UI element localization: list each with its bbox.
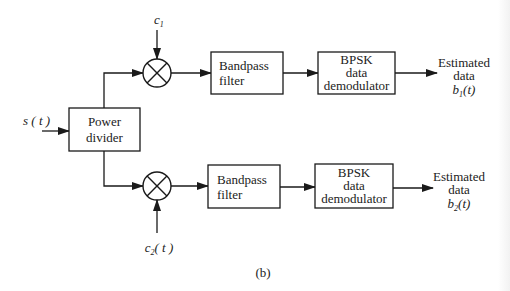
lower-branch: c2( t ) Bandpass filter BPSK data demodu…: [143, 164, 485, 257]
lower-branch-wire: [104, 151, 143, 186]
output1-label-line2: data: [453, 68, 475, 83]
bandpass-filter2-line1: Bandpass: [217, 172, 267, 187]
input-signal: s ( t ): [23, 113, 69, 131]
bpsk-demodulator1-line3: demodulator: [324, 78, 390, 93]
power-divider-label-line2: divider: [86, 130, 123, 145]
output1-symbol: b1(t): [453, 82, 476, 99]
power-divider-block: Power divider: [69, 108, 140, 151]
mixer2-input-label: c2( t ): [145, 240, 174, 257]
figure-caption: (b): [255, 265, 270, 280]
upper-branch-wire: [104, 73, 143, 108]
mixer1-multiplier-icon: [143, 59, 171, 87]
bandpass-filter1-line1: Bandpass: [219, 58, 269, 73]
bandpass-filter2-line2: filter: [217, 187, 243, 202]
input-signal-label: s ( t ): [23, 113, 50, 128]
mixer2-multiplier-icon: [143, 172, 171, 200]
upper-branch: c1 Bandpass filter BPSK data demodulator…: [143, 12, 490, 99]
page-edge-shadow: [498, 0, 510, 291]
output2-label-line2: data: [448, 182, 470, 197]
bpsk-receiver-block-diagram: s ( t ) Power divider c1 Bandpass filter…: [0, 0, 510, 291]
bandpass-filter1-line2: filter: [219, 73, 245, 88]
mixer1-input-label: c1: [154, 12, 164, 29]
power-divider-label-line1: Power: [88, 114, 122, 129]
output2-symbol: b2(t): [448, 196, 471, 213]
bpsk-demodulator2-line3: demodulator: [321, 191, 387, 206]
